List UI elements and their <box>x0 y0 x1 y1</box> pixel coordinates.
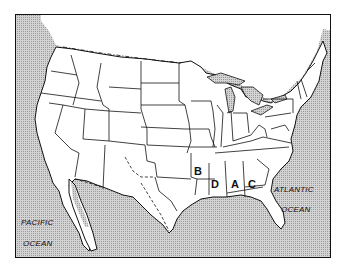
state-marker-b: B <box>194 165 202 177</box>
state-marker-a: A <box>231 178 239 190</box>
state-marker-d: D <box>211 178 219 190</box>
map-frame: B D A C ATLANTIC OCEAN PACIFIC OCEAN <box>15 14 331 258</box>
state-marker-c: C <box>248 178 256 190</box>
us-map-svg <box>16 15 331 258</box>
atlantic-ocean-label-line1: ATLANTIC <box>274 185 314 194</box>
pacific-ocean-label-line2: OCEAN <box>23 239 52 248</box>
pacific-ocean-label-line1: PACIFIC <box>21 218 53 227</box>
atlantic-ocean-label-line2: OCEAN <box>281 205 310 214</box>
